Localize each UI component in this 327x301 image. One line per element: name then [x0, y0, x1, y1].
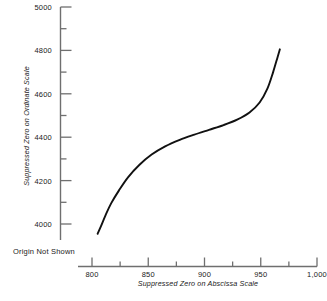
- ordinate-tick-label: 4000: [22, 220, 52, 229]
- ordinate-tick-label: 4800: [22, 46, 52, 55]
- origin-not-shown-note: Origin Not Shown: [13, 247, 75, 256]
- chart-figure: 400042004400460048005000 8008509009501,0…: [0, 0, 327, 301]
- abscissa-axis-title: Suppressed Zero on Abscissa Scale: [138, 279, 259, 288]
- ordinate-tick-label: 5000: [22, 3, 52, 12]
- abscissa-tick-label: 950: [254, 270, 267, 279]
- abscissa-tick-label: 850: [142, 270, 155, 279]
- abscissa-tick-label: 1,000: [307, 270, 327, 279]
- data-curve: [98, 49, 280, 233]
- abscissa-tick-marks: [92, 258, 317, 267]
- abscissa-tick-label: 900: [198, 270, 211, 279]
- ordinate-axis-title: Suppressed Zero on Ordinate Scale: [22, 66, 31, 186]
- data-curve-path: [98, 49, 280, 233]
- ordinate-tick-marks: [61, 7, 72, 224]
- abscissa-tick-label: 800: [85, 270, 98, 279]
